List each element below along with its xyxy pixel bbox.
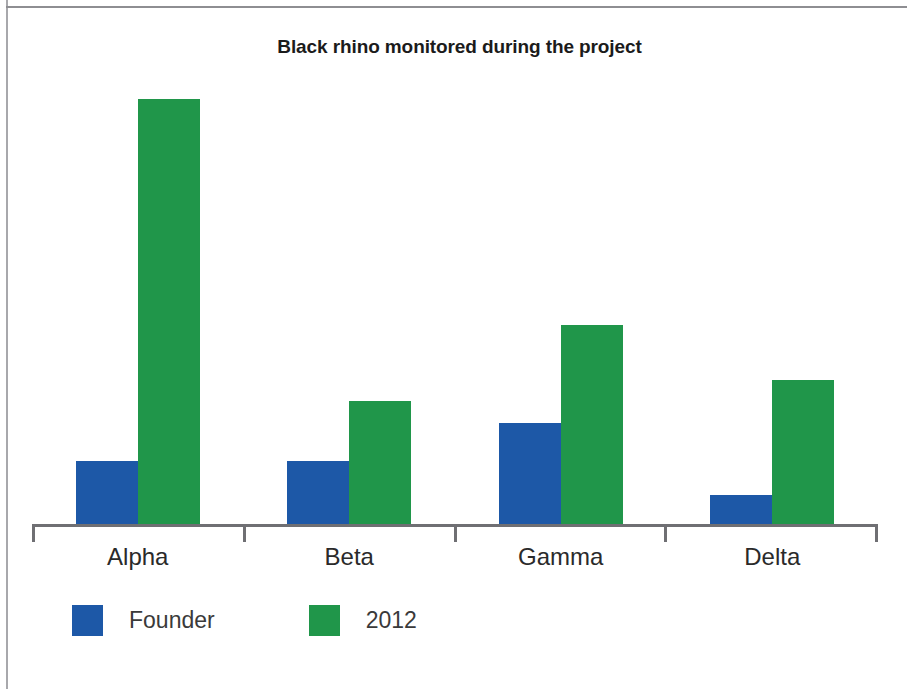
bar-gamma-2012 <box>561 325 623 525</box>
bar-group-alpha <box>32 90 244 525</box>
x-axis-tick-4 <box>875 526 878 542</box>
legend-item-2012: 2012 <box>309 605 417 636</box>
legend-label-founder: Founder <box>129 607 215 634</box>
chart-legend: Founder2012 <box>72 605 417 636</box>
bar-groups <box>32 90 878 525</box>
x-axis-tick-1 <box>243 526 246 542</box>
legend-swatch-founder <box>72 605 103 636</box>
bar-group-beta <box>244 90 456 525</box>
x-axis-label-beta: Beta <box>244 543 456 571</box>
x-axis-label-delta: Delta <box>667 543 879 571</box>
bar-group-delta <box>667 90 879 525</box>
bar-gamma-founder <box>499 423 561 525</box>
legend-label-2012: 2012 <box>366 607 417 634</box>
bar-chart-figure: Black rhino monitored during the project… <box>0 0 919 689</box>
chart-title: Black rhino monitored during the project <box>0 36 919 58</box>
bar-beta-2012 <box>349 401 411 525</box>
x-axis-tick-0 <box>32 526 35 542</box>
x-axis-category-labels: AlphaBetaGammaDelta <box>32 543 878 571</box>
bar-delta-2012 <box>772 380 834 525</box>
plot-area <box>32 90 878 525</box>
bar-alpha-founder <box>76 461 138 525</box>
bar-delta-founder <box>710 495 772 525</box>
x-axis-label-alpha: Alpha <box>32 543 244 571</box>
legend-item-founder: Founder <box>72 605 215 636</box>
bar-beta-founder <box>287 461 349 525</box>
legend-swatch-2012 <box>309 605 340 636</box>
bar-group-gamma <box>455 90 667 525</box>
x-axis-tick-3 <box>664 526 667 542</box>
x-axis-label-gamma: Gamma <box>455 543 667 571</box>
bar-alpha-2012 <box>138 99 200 525</box>
x-axis-tick-2 <box>454 526 457 542</box>
screenshot-page: Black rhino monitored during the project… <box>0 0 919 689</box>
